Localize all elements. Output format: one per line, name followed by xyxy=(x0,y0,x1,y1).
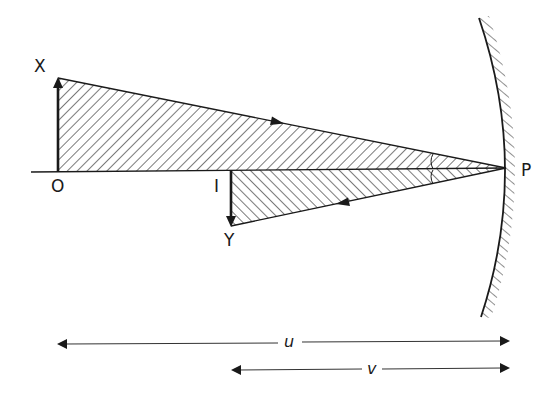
distance-v-line-right xyxy=(382,368,502,369)
distance-u-arrow-left-icon xyxy=(57,339,67,349)
distance-u-arrow-right-icon xyxy=(500,336,510,346)
distance-v-line-left xyxy=(238,369,362,370)
distance-v-arrow-right-icon xyxy=(500,363,510,373)
ray-diagram: X O I Y P u v xyxy=(0,0,554,394)
distance-v-arrow-left-icon xyxy=(231,365,241,375)
distance-u-line-right xyxy=(302,341,502,342)
label-x: X xyxy=(34,56,46,76)
label-y: Y xyxy=(223,230,235,250)
distance-u-line-left xyxy=(64,343,278,344)
label-p: P xyxy=(521,160,531,180)
label-o: O xyxy=(51,176,64,196)
label-u: u xyxy=(284,332,294,351)
incident-ray-arrow-icon xyxy=(270,117,284,126)
label-v: v xyxy=(367,359,377,378)
label-i: I xyxy=(214,176,219,196)
